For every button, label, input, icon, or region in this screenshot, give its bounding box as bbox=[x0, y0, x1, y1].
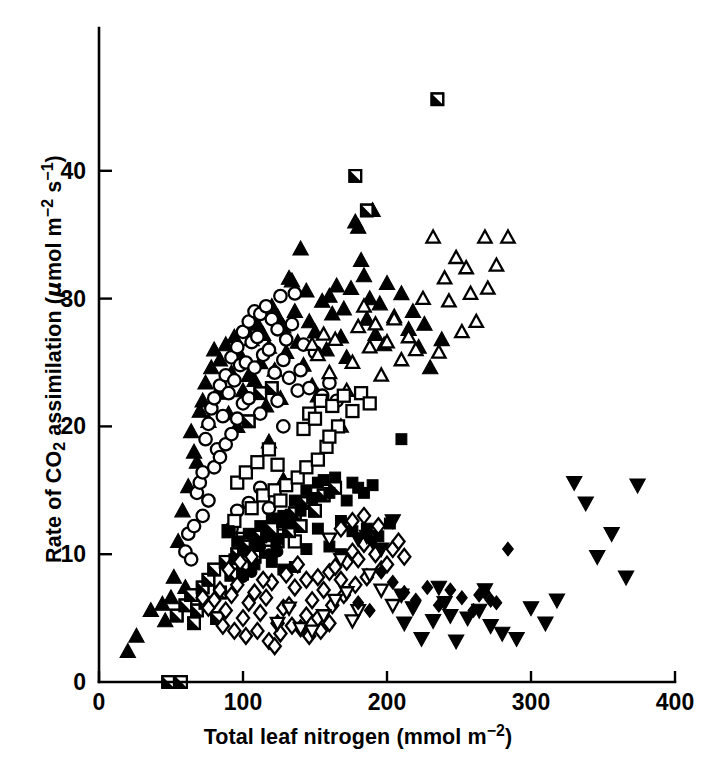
point-half-filled-square bbox=[243, 415, 255, 427]
point-filled-circle bbox=[255, 541, 266, 552]
point-filled-square bbox=[284, 518, 295, 529]
point-open-square bbox=[326, 400, 338, 412]
point-open-square bbox=[280, 479, 292, 491]
point-open-circle bbox=[260, 300, 272, 312]
point-filled-triangle-down bbox=[460, 612, 475, 626]
point-open-triangle-up bbox=[323, 366, 336, 378]
point-open-triangle-up bbox=[432, 345, 445, 357]
point-filled-square bbox=[255, 521, 266, 532]
point-half-filled-square bbox=[266, 382, 278, 394]
point-filled-circle bbox=[246, 567, 257, 578]
point-filled-triangle-up bbox=[353, 252, 368, 266]
point-open-diamond bbox=[398, 549, 410, 565]
point-filled-triangle-up bbox=[379, 275, 394, 289]
point-open-square bbox=[312, 454, 324, 466]
point-half-filled-square bbox=[185, 589, 197, 601]
point-filled-triangle-down bbox=[509, 632, 524, 646]
x-tick-label: 200 bbox=[368, 689, 406, 715]
point-filled-triangle-down bbox=[549, 594, 564, 608]
point-open-diamond bbox=[254, 605, 266, 621]
point-open-square bbox=[257, 489, 269, 501]
point-filled-square bbox=[232, 536, 243, 547]
point-open-circle bbox=[271, 395, 283, 407]
point-open-circle bbox=[225, 428, 237, 440]
plot-canvas: 0100200300400010203040 bbox=[0, 0, 716, 764]
point-open-square bbox=[274, 495, 286, 507]
point-filled-square bbox=[341, 495, 352, 506]
point-open-square bbox=[309, 413, 321, 425]
point-filled-triangle-up bbox=[175, 503, 190, 517]
point-filled-triangle-up bbox=[120, 643, 135, 657]
point-open-triangle-up bbox=[449, 251, 462, 263]
point-filled-triangle-up bbox=[163, 590, 178, 604]
point-open-square bbox=[228, 515, 240, 527]
scatter-plot-figure: 0100200300400010203040 Total leaf nitrog… bbox=[0, 0, 716, 764]
point-filled-triangle-down bbox=[405, 602, 420, 616]
point-half-filled-square bbox=[361, 205, 373, 217]
point-filled-triangle-down bbox=[431, 581, 446, 595]
point-filled-triangle-up bbox=[417, 316, 432, 330]
point-open-triangle-up bbox=[455, 325, 468, 337]
point-open-circle bbox=[202, 418, 214, 430]
point-open-circle bbox=[263, 344, 275, 356]
point-open-square bbox=[240, 466, 252, 478]
point-filled-triangle-down bbox=[448, 635, 463, 649]
point-filled-triangle-down bbox=[425, 615, 440, 629]
point-open-circle bbox=[231, 341, 243, 353]
point-open-circle bbox=[202, 494, 214, 506]
point-open-circle bbox=[217, 410, 229, 422]
point-open-circle bbox=[294, 364, 306, 376]
x-axis-title: Total leaf nitrogen (mmol m−2) bbox=[0, 722, 716, 750]
point-filled-diamond bbox=[422, 581, 433, 595]
point-filled-square bbox=[396, 434, 407, 445]
point-filled-triangle-down bbox=[578, 497, 593, 511]
point-filled-triangle-down bbox=[618, 571, 633, 585]
point-open-circle bbox=[286, 318, 298, 330]
point-open-circle bbox=[222, 387, 234, 399]
point-open-square bbox=[323, 431, 335, 443]
point-filled-square bbox=[318, 475, 329, 486]
point-filled-square bbox=[307, 493, 318, 504]
point-half-filled-square bbox=[208, 564, 220, 576]
x-tick-label: 0 bbox=[93, 689, 106, 715]
point-filled-diamond bbox=[445, 583, 456, 597]
point-filled-square bbox=[330, 472, 341, 483]
point-half-filled-square bbox=[309, 505, 321, 517]
point-open-square bbox=[338, 390, 350, 402]
point-filled-square bbox=[261, 531, 272, 542]
point-filled-diamond bbox=[457, 591, 468, 605]
point-filled-square bbox=[301, 544, 312, 555]
point-filled-triangle-up bbox=[356, 268, 371, 282]
point-filled-triangle-down bbox=[590, 551, 605, 565]
point-open-circle bbox=[289, 287, 301, 299]
point-open-circle bbox=[231, 413, 243, 425]
point-filled-triangle-up bbox=[287, 304, 302, 318]
point-filled-triangle-down bbox=[523, 602, 538, 616]
point-open-triangle-up bbox=[363, 340, 376, 352]
point-filled-triangle-up bbox=[198, 375, 213, 389]
point-open-circle bbox=[292, 384, 304, 396]
point-filled-triangle-up bbox=[129, 628, 144, 642]
point-filled-triangle-up bbox=[343, 281, 358, 295]
point-open-diamond bbox=[300, 572, 312, 588]
point-filled-triangle-down bbox=[630, 479, 645, 493]
point-open-circle bbox=[274, 290, 286, 302]
point-filled-square bbox=[272, 533, 283, 544]
point-open-triangle-up bbox=[426, 230, 439, 242]
x-tick-label: 100 bbox=[224, 689, 262, 715]
point-open-triangle-down bbox=[375, 585, 388, 597]
x-tick-label: 300 bbox=[512, 689, 550, 715]
point-filled-triangle-down bbox=[443, 609, 458, 623]
point-open-triangle-up bbox=[481, 282, 494, 294]
point-open-triangle-up bbox=[470, 315, 483, 327]
point-open-triangle-up bbox=[478, 230, 491, 242]
point-open-circle bbox=[280, 333, 292, 345]
point-filled-square bbox=[243, 528, 254, 539]
point-open-circle bbox=[185, 553, 197, 565]
point-open-circle bbox=[196, 510, 208, 522]
point-filled-triangle-up bbox=[186, 444, 201, 458]
point-open-triangle-up bbox=[442, 294, 455, 306]
point-open-triangle-up bbox=[490, 259, 503, 271]
point-open-triangle-up bbox=[375, 368, 388, 380]
point-open-diamond bbox=[237, 610, 249, 626]
